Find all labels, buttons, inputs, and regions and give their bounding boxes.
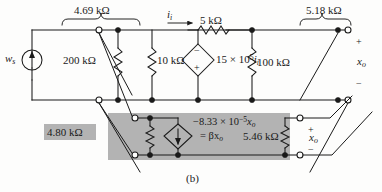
dep-vsrc-polarity-minus: − <box>194 45 200 56</box>
brace-label-469: 4.69 kΩ <box>74 4 110 16</box>
node-dot <box>336 98 341 103</box>
node-dot <box>116 28 121 33</box>
circuit-figure: ws 4.69 kΩ ii 200 kΩ 10 kΩ 5 kΩ 100 kΩ −… <box>0 0 382 192</box>
dep-vsrc-polarity-plus: + <box>194 62 200 73</box>
brace-label-518: 5.18 kΩ <box>306 4 342 16</box>
output-label-xo: xo <box>357 55 366 69</box>
node-dot <box>196 98 201 103</box>
dep-vsrc-label: 15 × 105ii <box>216 53 259 67</box>
dep-isrc-label-line1: −8.33 × 10−5xo <box>193 115 255 129</box>
dep-isrc-label-line2: = βxo <box>200 130 223 143</box>
node-dot <box>116 98 121 103</box>
output-minus-sign: − <box>356 78 362 89</box>
resistor-200k-zig <box>114 48 122 76</box>
node-dot <box>336 28 341 33</box>
diag-top-left-down <box>99 33 132 95</box>
source-label-ws: ws <box>5 52 15 66</box>
stage2-minus-sign: − <box>308 144 314 155</box>
resistor-label-100k: 100 kΩ <box>257 56 290 68</box>
stage2-label-xo: xo <box>309 131 318 145</box>
terminal-stage2-out-plus <box>297 115 303 121</box>
resistor-label-480: 4.80 kΩ <box>47 126 83 138</box>
figure-caption: (b) <box>186 172 199 184</box>
terminal-bottom-left <box>96 97 102 103</box>
terminal-stage2-bottom-left <box>132 152 138 158</box>
diag-right-down-a <box>300 33 338 100</box>
terminal-stage2-out-minus <box>297 152 303 158</box>
output-plus-sign: + <box>356 36 362 47</box>
resistor-10k-zig <box>148 48 156 76</box>
terminal-out-plus <box>345 27 351 33</box>
resistor-label-200k: 200 kΩ <box>63 54 96 66</box>
terminal-top-left <box>96 27 102 33</box>
diag-to-stage2-top <box>99 33 132 116</box>
node-dot <box>150 98 155 103</box>
resistor-label-10k: 10 kΩ <box>157 54 184 66</box>
resistor-label-5k: 5 kΩ <box>200 14 222 26</box>
terminal-stage2-top-left <box>132 115 138 121</box>
schematic-canvas <box>0 0 382 192</box>
current-label-ii: ii <box>167 8 172 22</box>
resistor-label-546: 5.46 kΩ <box>243 130 279 142</box>
